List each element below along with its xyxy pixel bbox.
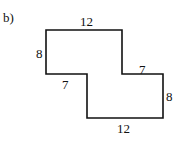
dimension-right: 8 xyxy=(166,89,173,104)
dimension-inner-left-step: 7 xyxy=(62,77,69,92)
z-shape-diagram: b) 12 8 7 7 8 12 xyxy=(0,0,180,147)
dimension-top: 12 xyxy=(80,14,93,29)
dimension-inner-right-step: 7 xyxy=(139,62,146,77)
part-label: b) xyxy=(3,10,14,25)
dimension-bottom: 12 xyxy=(117,121,130,136)
dimension-left: 8 xyxy=(36,46,43,61)
